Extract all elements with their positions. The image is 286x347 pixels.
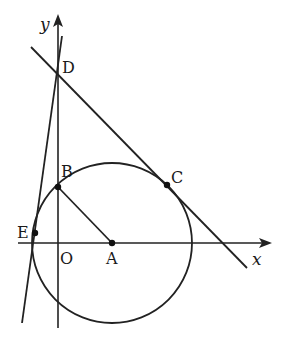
x-axis-label: x — [252, 249, 262, 269]
tangent-line-DC — [31, 47, 247, 268]
point-A-label: A — [105, 249, 118, 268]
point-D-label: D — [62, 58, 75, 77]
y-axis-label: y — [39, 14, 50, 34]
point-E — [32, 230, 38, 236]
point-C-label: C — [171, 168, 183, 187]
geometry-diagram: y x O A B C D E — [0, 0, 286, 347]
origin-label: O — [60, 249, 73, 268]
point-A — [109, 240, 115, 246]
point-C — [164, 182, 170, 188]
point-B — [55, 184, 61, 190]
segment-AB — [58, 187, 112, 243]
point-E-label: E — [17, 223, 29, 242]
point-B-label: B — [61, 162, 73, 181]
